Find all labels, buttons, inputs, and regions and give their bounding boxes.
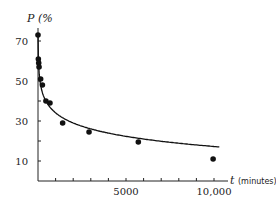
axes: 500010,00010305070 (15, 28, 231, 197)
y-tick-label: 10 (15, 156, 28, 167)
data-point (40, 82, 46, 88)
y-tick-label: 70 (15, 36, 28, 47)
y-tick-label: 50 (15, 76, 28, 87)
x-axis-unit: (minutes) (238, 177, 276, 186)
y-tick-label: 30 (15, 116, 28, 127)
data-point (38, 76, 44, 82)
data-point (210, 156, 216, 162)
data-point (136, 139, 142, 145)
x-tick-label: 5000 (113, 186, 138, 197)
data-point (36, 64, 42, 70)
data-points (35, 32, 216, 162)
fitted-curve (38, 36, 219, 147)
y-axis-label: P (% (26, 12, 53, 25)
data-point (60, 120, 66, 126)
chart: 500010,00010305070 P (% t (minutes) (0, 0, 276, 204)
x-axis-label: t (230, 174, 235, 187)
data-point (47, 100, 53, 106)
data-point (86, 129, 92, 135)
data-point (35, 32, 41, 38)
x-tick-label: 10,000 (197, 186, 232, 197)
